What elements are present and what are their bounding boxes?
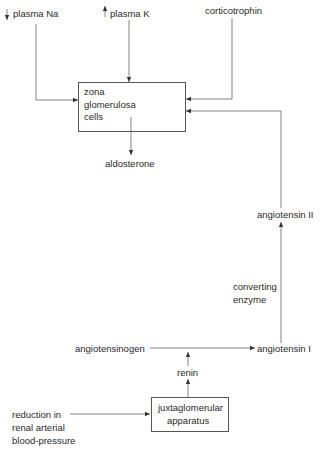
angiotensinogen-label: angiotensinogen — [75, 342, 145, 355]
jg-line-1: juxtaglomerular — [158, 402, 223, 415]
renin-label: renin — [177, 366, 198, 379]
reduction-line-3: blood-pressure — [12, 434, 75, 447]
jg-line-2: apparatus — [167, 415, 209, 428]
zona-glomerulosa-box: zona glomerulosa cells — [78, 82, 186, 132]
zona-line-2: glomerulosa — [84, 99, 136, 112]
plasma-na-label: plasma Na — [13, 7, 58, 20]
angiotensin-i-label: angiotensin I — [257, 342, 311, 355]
converting-enzyme-line-2: enzyme — [233, 293, 266, 306]
converting-enzyme-line-1: converting — [233, 280, 277, 293]
connector-lines — [0, 0, 324, 452]
aldosterone-label: aldosterone — [105, 157, 155, 170]
reduction-line-2: renal arterial — [12, 421, 65, 434]
juxtaglomerular-box: juxtaglomerular apparatus — [151, 397, 229, 432]
zona-line-1: zona — [84, 86, 105, 99]
corticotrophin-label: corticotrophin — [205, 4, 262, 17]
reduction-line-1: reduction in — [12, 408, 61, 421]
zona-line-3: cells — [84, 111, 103, 124]
angiotensin-ii-label: angiotensin II — [257, 208, 314, 221]
plasma-k-label: plasma K — [110, 7, 150, 20]
